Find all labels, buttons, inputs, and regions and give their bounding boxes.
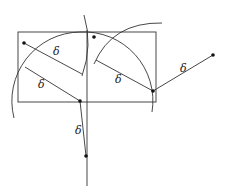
delta-segment-3 [96, 60, 153, 91]
point-p5 [211, 53, 215, 57]
point-p6 [84, 154, 88, 158]
delta-label-3: δ [115, 73, 122, 86]
delta-label-1: δ [53, 45, 60, 58]
point-p1 [22, 41, 26, 45]
delta-construction-diagram: δ δ δ δ δ [0, 0, 226, 196]
arc-around-p4 [94, 23, 162, 64]
point-p3 [78, 99, 82, 103]
delta-label-2: δ [38, 78, 45, 91]
delta-segment-2 [25, 67, 80, 101]
point-p4 [151, 89, 155, 93]
delta-label-5: δ [75, 124, 82, 137]
delta-label-4: δ [180, 62, 187, 75]
point-p2 [92, 35, 96, 39]
